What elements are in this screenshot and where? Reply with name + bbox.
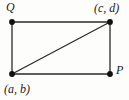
vertex-top-left — [9, 19, 15, 25]
rectangle-diagram: Q (c, d) (a, b) P — [0, 0, 129, 100]
vertex-bottom-right — [107, 71, 113, 77]
vertex-top-right — [107, 19, 113, 25]
vertex-label-cd: (c, d) — [94, 2, 119, 14]
diagonal-edge — [12, 22, 110, 74]
vertex-label-p: P — [116, 64, 123, 76]
vertex-bottom-left — [9, 71, 15, 77]
vertex-label-q: Q — [6, 1, 15, 13]
vertex-label-ab: (a, b) — [4, 83, 30, 95]
